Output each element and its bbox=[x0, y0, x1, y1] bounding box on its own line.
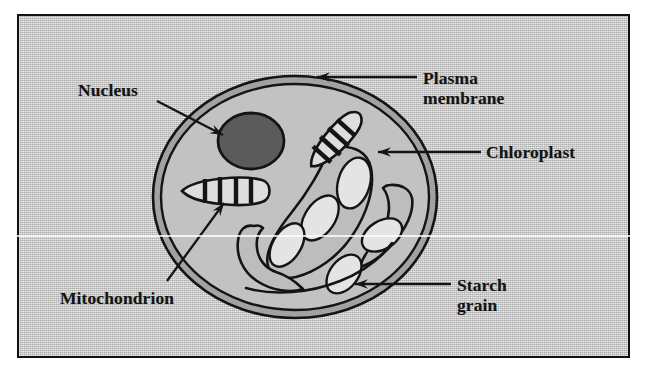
cell-body bbox=[153, 76, 437, 318]
plasma-membrane-label-line1: Plasma bbox=[423, 68, 478, 88]
chloroplast-label: Chloroplast bbox=[486, 142, 575, 162]
plasma-membrane-label: Plasmamembrane bbox=[423, 68, 504, 108]
plasma-membrane-label-line2: membrane bbox=[423, 88, 504, 108]
figure-page: Nucleus Plasmamembrane Chloroplast Starc… bbox=[0, 0, 647, 381]
plant-cell-diagram bbox=[0, 0, 647, 381]
starch-grain-label-line1: Starch bbox=[457, 275, 507, 295]
starch-grain-label-line2: grain bbox=[457, 295, 497, 315]
starch-grain-label: Starchgrain bbox=[457, 275, 507, 315]
nucleus-label: Nucleus bbox=[78, 80, 138, 100]
mitochondrion-label: Mitochondrion bbox=[60, 288, 174, 308]
nucleus-organelle bbox=[218, 113, 284, 169]
